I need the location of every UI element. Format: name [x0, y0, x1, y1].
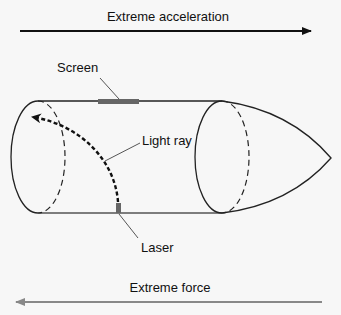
laser-label: Laser: [141, 240, 174, 255]
nose-cone: [222, 101, 331, 213]
force-arrow: Extreme force: [16, 280, 322, 302]
screen-label: Screen: [57, 60, 98, 75]
right-ring-hidden: [222, 101, 249, 213]
screen-bar: [98, 99, 139, 104]
acceleration-arrow: Extreme acceleration: [20, 9, 311, 31]
diagram-canvas: Extreme acceleration Screen Light ray La…: [0, 0, 341, 315]
light-ray-path: [33, 117, 118, 202]
screen-leader: [100, 78, 119, 99]
light-ray: Light ray: [33, 117, 192, 202]
left-end-solid: [11, 101, 38, 213]
force-label: Extreme force: [130, 280, 211, 295]
right-ring-solid: [195, 101, 222, 213]
light-ray-label: Light ray: [142, 133, 192, 148]
acceleration-label: Extreme acceleration: [107, 9, 229, 24]
screen: Screen: [57, 60, 139, 104]
laser: Laser: [116, 203, 174, 255]
laser-leader: [119, 214, 138, 238]
laser-emitter: [116, 203, 121, 213]
spaceship: [11, 101, 331, 213]
light-ray-leader: [105, 143, 140, 161]
